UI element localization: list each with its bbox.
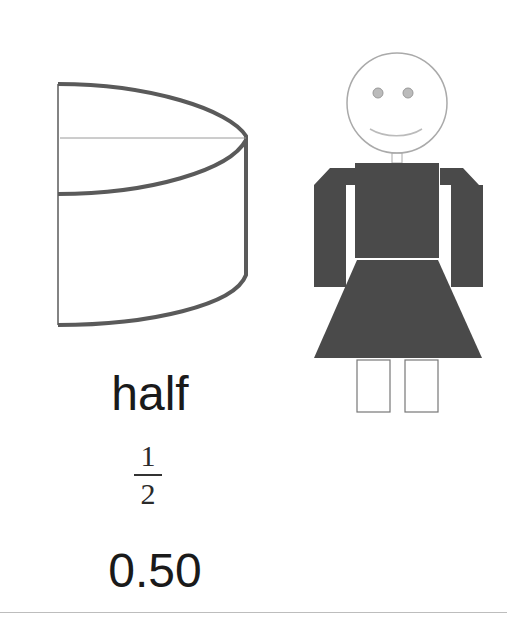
girl-figure-icon: [314, 53, 483, 412]
illustration: [0, 0, 507, 624]
decimal-label: 0.50: [90, 545, 220, 597]
head: [347, 53, 447, 153]
fraction-bar: [134, 474, 162, 476]
fraction-denominator: 2: [128, 478, 168, 510]
divider: [0, 612, 507, 613]
torso: [355, 163, 439, 258]
fraction-numerator: 1: [128, 440, 168, 472]
word-label: half: [105, 368, 195, 420]
half-cylinder-icon: [58, 84, 246, 325]
fraction-label: 1 2: [128, 440, 168, 510]
left-arm: [314, 168, 357, 287]
right-arm: [440, 168, 483, 287]
